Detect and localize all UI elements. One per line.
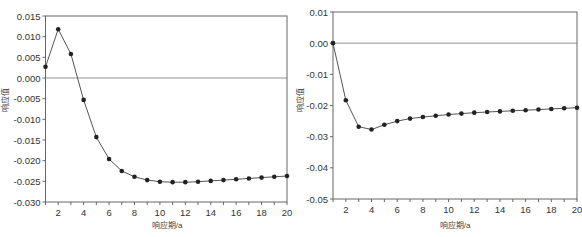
data-point-marker (421, 115, 426, 120)
x-tick-label: 10 (155, 207, 166, 218)
y-tick-label: -0.005 (14, 93, 41, 104)
y-tick-label: -0.020 (14, 155, 41, 166)
x-tick-label: 10 (443, 204, 454, 215)
x-axis-title: 响应期/a (152, 220, 183, 230)
x-tick-label: 2 (343, 204, 348, 215)
data-point-marker (562, 106, 567, 111)
x-tick-label: 6 (395, 204, 400, 215)
y-tick-label: 0.00 (310, 38, 329, 49)
data-point-marker (183, 180, 188, 185)
data-point-marker (221, 178, 226, 183)
right-chart-svg: 0.010.00-0.01-0.02-0.03-0.04-0.05 246810… (290, 0, 582, 237)
x-tick-label: 20 (572, 204, 582, 215)
data-point-marker (523, 108, 528, 113)
x-tick-labels: 2468101214161820 (56, 207, 293, 218)
x-tick-label: 14 (205, 207, 216, 218)
data-point-marker (395, 119, 400, 124)
y-tick-label: -0.030 (14, 197, 41, 208)
x-tick-label: 14 (495, 204, 506, 215)
y-tick-label: 0.01 (310, 7, 329, 18)
data-point-marker (259, 175, 264, 180)
data-point-marker (107, 157, 112, 162)
data-point-marker (510, 108, 515, 113)
x-tick-label: 4 (81, 207, 86, 218)
data-point-marker (408, 116, 413, 121)
plot-frame (330, 12, 577, 202)
data-point-marker (575, 105, 580, 110)
data-point-marker (196, 179, 201, 184)
left-impulse-response-chart: 0.0150.0100.0050.000-0.005-0.010-0.015-0… (0, 0, 295, 237)
response-line (46, 29, 288, 182)
right-impulse-response-chart: 0.010.00-0.01-0.02-0.03-0.04-0.05 246810… (290, 0, 582, 237)
y-tick-label: -0.04 (306, 162, 328, 173)
x-tick-label: 8 (420, 204, 425, 215)
data-point-marker (485, 110, 490, 115)
data-point-marker (81, 98, 86, 103)
x-tick-label: 8 (132, 207, 137, 218)
x-tick-label: 16 (231, 207, 242, 218)
data-point-marker (331, 41, 336, 46)
data-point-marker (356, 124, 361, 129)
x-tick-label: 16 (520, 204, 531, 215)
plot-area-border (333, 12, 577, 199)
data-point-marker (56, 27, 61, 32)
x-tick-label: 12 (469, 204, 480, 215)
data-point-marker (433, 113, 438, 118)
x-tick-label: 18 (256, 207, 267, 218)
data-point-marker (234, 177, 239, 182)
y-axis-title: 响应值 (295, 88, 305, 112)
y-tick-labels: 0.0150.0100.0050.000-0.005-0.010-0.015-0… (14, 11, 41, 208)
response-line (333, 43, 577, 129)
data-series (331, 41, 580, 132)
y-tick-label: -0.02 (306, 100, 328, 111)
y-tick-label: -0.010 (14, 114, 41, 125)
x-tick-labels: 2468101214161820 (343, 204, 582, 215)
data-point-marker (285, 174, 290, 179)
y-tick-label: -0.025 (14, 176, 41, 187)
y-tick-label: 0.000 (17, 73, 41, 84)
y-tick-label: -0.05 (306, 194, 328, 205)
data-series (43, 27, 289, 185)
data-point-marker (119, 169, 124, 174)
left-chart-svg: 0.0150.0100.0050.000-0.005-0.010-0.015-0… (0, 0, 295, 237)
data-point-marker (145, 178, 150, 183)
y-tick-label: 0.015 (17, 11, 41, 22)
data-point-marker (69, 52, 74, 57)
data-point-marker (459, 111, 464, 116)
data-point-marker (498, 109, 503, 114)
y-tick-labels: 0.010.00-0.01-0.02-0.03-0.04-0.05 (306, 7, 328, 205)
data-point-marker (446, 112, 451, 117)
y-tick-label: 0.005 (17, 52, 41, 63)
y-tick-label: -0.01 (306, 69, 328, 80)
data-point-marker (208, 179, 213, 184)
x-tick-label: 4 (369, 204, 374, 215)
data-point-marker (344, 98, 349, 103)
y-tick-label: -0.015 (14, 135, 41, 146)
data-point-marker (94, 135, 99, 140)
data-point-marker (158, 179, 163, 184)
data-point-marker (43, 65, 48, 70)
data-point-marker (382, 123, 387, 128)
x-tick-label: 18 (546, 204, 557, 215)
plot-area-border (46, 16, 288, 202)
data-point-marker (472, 110, 477, 115)
data-point-marker (549, 107, 554, 112)
data-point-marker (247, 176, 252, 181)
plot-frame (43, 16, 288, 205)
data-point-marker (170, 180, 175, 185)
x-tick-label: 6 (106, 207, 111, 218)
data-point-marker (536, 107, 541, 112)
data-point-marker (272, 174, 277, 179)
y-tick-label: 0.010 (17, 31, 41, 42)
y-tick-label: -0.03 (306, 131, 328, 142)
x-tick-label: 2 (56, 207, 61, 218)
x-tick-label: 12 (180, 207, 191, 218)
y-axis-title: 响应值 (0, 88, 10, 112)
data-point-marker (132, 174, 137, 179)
x-axis-title: 响应期/a (440, 220, 471, 230)
data-point-marker (369, 127, 374, 132)
